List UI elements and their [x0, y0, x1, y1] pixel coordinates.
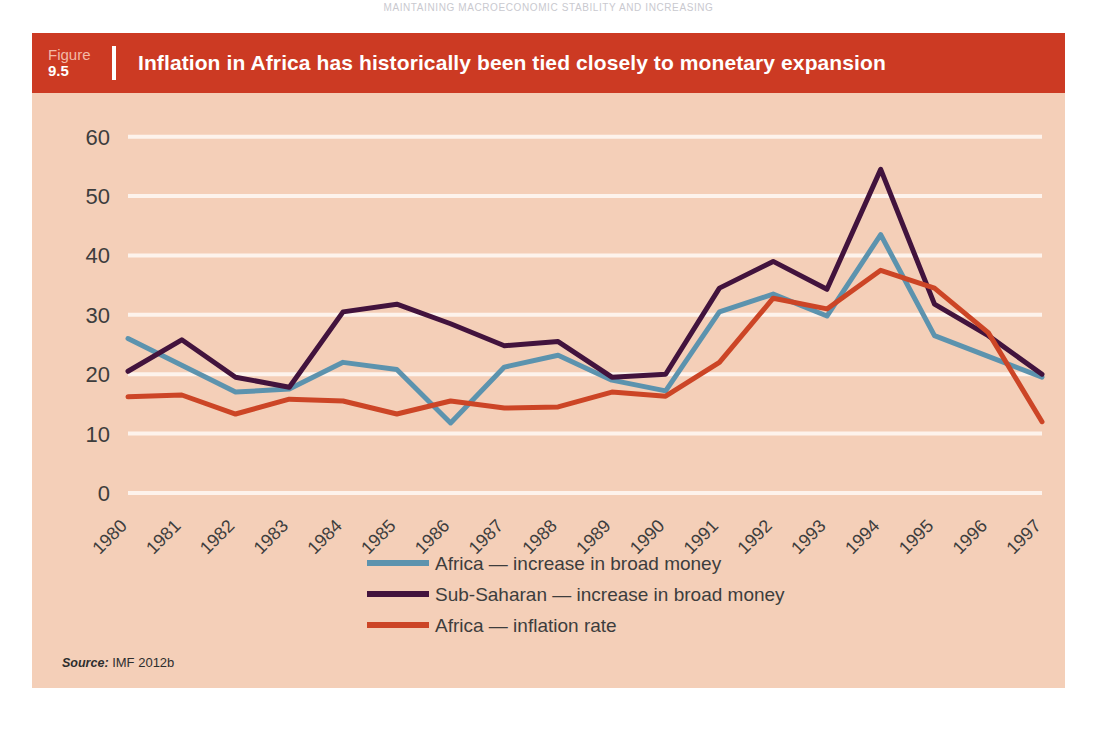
legend-label-2: Sub-Saharan — increase in broad money	[435, 584, 785, 605]
x-axis-tick-label: 1984	[303, 516, 345, 558]
x-axis-tick-label: 1991	[680, 516, 722, 558]
x-axis-tick-label: 1982	[196, 516, 238, 558]
series-line-1	[128, 235, 1042, 423]
source-label: Source:	[62, 656, 109, 670]
figure-number-block: Figure 9.5	[32, 47, 112, 79]
figure-title-bar: Figure 9.5 Inflation in Africa has histo…	[32, 33, 1065, 93]
figure-label: Figure	[48, 46, 91, 63]
y-axis-tick-label: 0	[98, 481, 110, 506]
x-axis-tick-label: 1980	[88, 516, 130, 558]
legend-label-3: Africa — inflation rate	[435, 615, 617, 636]
x-axis-tick-label: 1993	[787, 516, 829, 558]
series-line-3	[128, 270, 1042, 421]
y-axis-tick-label: 50	[86, 184, 110, 209]
x-axis-tick-label: 1990	[626, 516, 668, 558]
x-axis-tick-label: 1997	[1002, 516, 1044, 558]
x-axis-tick-label: 1983	[250, 516, 292, 558]
y-axis-tick-label: 60	[86, 125, 110, 150]
x-axis-tick-label: 1989	[572, 516, 614, 558]
y-axis-tick-label: 40	[86, 243, 110, 268]
x-axis-tick-label: 1988	[518, 516, 560, 558]
figure-number: 9.5	[48, 63, 112, 79]
page-running-header: MAINTAINING MACROECONOMIC STABILITY AND …	[0, 2, 1097, 13]
x-axis-tick-label: 1992	[734, 516, 776, 558]
x-axis-tick-label: 1987	[465, 516, 507, 558]
figure-title: Inflation in Africa has historically bee…	[138, 51, 886, 75]
source-note: Source: IMF 2012b	[62, 655, 174, 670]
x-axis-tick-label: 1994	[841, 516, 883, 558]
y-axis-tick-label: 20	[86, 362, 110, 387]
x-axis-tick-label: 1986	[411, 516, 453, 558]
x-axis-tick-label: 1981	[142, 516, 184, 558]
x-axis-tick-label: 1995	[895, 516, 937, 558]
figure-card: Figure 9.5 Inflation in Africa has histo…	[32, 33, 1065, 688]
x-axis-tick-label: 1996	[949, 516, 991, 558]
y-axis-tick-label: 30	[86, 303, 110, 328]
line-chart: 0102030405060198019811982198319841985198…	[32, 93, 1065, 688]
source-value: IMF 2012b	[112, 655, 174, 670]
title-divider	[112, 46, 116, 80]
x-axis-tick-label: 1985	[357, 516, 399, 558]
chart-area: 0102030405060198019811982198319841985198…	[32, 93, 1065, 688]
y-axis-tick-label: 10	[86, 422, 110, 447]
legend-label-1: Africa — increase in broad money	[435, 553, 722, 574]
